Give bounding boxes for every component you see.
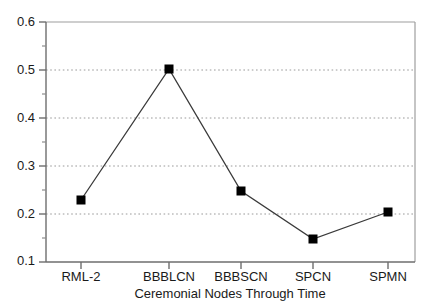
y-tick-label: 0.1 xyxy=(17,253,35,268)
chart-figure: 0.6 0.5 0.4 0.3 0.2 0.1 RML-2 BBBLCN BBB… xyxy=(0,0,439,308)
data-point-marker xyxy=(309,235,318,244)
x-axis-title: Ceremonial Nodes Through Time xyxy=(134,286,325,301)
x-tick-label-rml-2: RML-2 xyxy=(61,269,100,284)
x-tick-label-spmn: SPMN xyxy=(369,269,407,284)
y-tick-label: 0.5 xyxy=(17,62,35,77)
data-point-marker xyxy=(384,208,393,217)
data-point-marker xyxy=(237,187,246,196)
data-point-marker xyxy=(165,65,174,74)
x-tick-label-bbbscn: BBBSCN xyxy=(214,269,267,284)
y-tick-label: 0.6 xyxy=(17,14,35,29)
y-tick-label: 0.2 xyxy=(17,206,35,221)
line-chart-canvas: 0.6 0.5 0.4 0.3 0.2 0.1 RML-2 BBBLCN BBB… xyxy=(0,0,439,308)
x-tick-label-bbblcn: BBBLCN xyxy=(143,269,195,284)
y-tick-label: 0.3 xyxy=(17,158,35,173)
data-point-marker xyxy=(77,196,86,205)
y-tick-label: 0.4 xyxy=(17,110,35,125)
x-tick-label-spcn: SPCN xyxy=(295,269,331,284)
